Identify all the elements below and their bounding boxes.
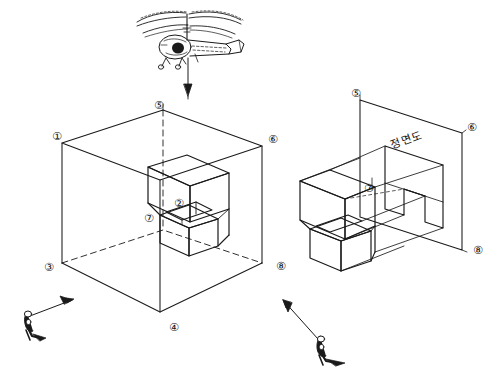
plane-corner-label-8: ⑧ — [473, 245, 483, 256]
corner-label-3: ③ — [44, 262, 54, 273]
object-label-7: ⑦ — [144, 213, 154, 224]
figure-canvas: ① ⑤ ⑥ ③ ④ ⑧ ② ⑦ ⑤ ⑥ ⑦ ⑧ 정면도 — [0, 0, 502, 374]
projected-front-view — [385, 146, 443, 228]
plane-corner-label-5: ⑤ — [351, 88, 361, 99]
glass-box — [62, 104, 262, 312]
object-label-2: ② — [174, 198, 184, 209]
technical-drawing — [0, 0, 502, 374]
helicopter-icon — [137, 11, 244, 99]
corner-label-1: ① — [52, 131, 62, 142]
plane-corner-label-7: ⑦ — [364, 183, 374, 194]
corner-label-6: ⑥ — [268, 134, 278, 145]
projection-plane — [360, 95, 467, 252]
corner-label-5: ⑤ — [154, 100, 164, 111]
corner-label-8: ⑧ — [276, 261, 286, 272]
observer-figure-left — [24, 296, 74, 341]
plane-corner-label-6: ⑥ — [467, 122, 477, 133]
corner-label-4: ④ — [169, 322, 179, 333]
observer-figure-right — [283, 300, 345, 366]
